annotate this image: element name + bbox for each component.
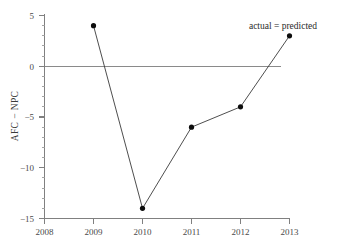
series-line-afc-minus-npc xyxy=(94,26,290,209)
data-point-2009 xyxy=(91,23,96,28)
line-chart-plot: 5 0 −5 −10 −15 2008 2009 2010 2011 2012 … xyxy=(0,0,337,250)
y-axis-title: AFC − NPC xyxy=(10,91,20,142)
data-point-2011 xyxy=(189,125,194,130)
y-tick-label-minus10: −10 xyxy=(20,163,35,173)
x-tick-label-2011: 2011 xyxy=(183,227,201,237)
data-point-2013 xyxy=(287,33,292,38)
data-point-2010 xyxy=(140,206,145,211)
x-tick-label-2010: 2010 xyxy=(134,227,153,237)
x-tick-label-2012: 2012 xyxy=(232,227,250,237)
y-tick-label-minus5: −5 xyxy=(24,112,34,122)
x-tick-label-2013: 2013 xyxy=(281,227,300,237)
x-tick-label-2009: 2009 xyxy=(85,227,104,237)
x-axis-ticks xyxy=(45,219,290,225)
chart-container: 5 0 −5 −10 −15 2008 2009 2010 2011 2012 … xyxy=(0,0,337,250)
series-markers xyxy=(91,23,292,211)
y-tick-label-0: 0 xyxy=(30,62,35,72)
data-point-2012 xyxy=(238,104,243,109)
y-tick-label-5: 5 xyxy=(30,11,35,21)
y-tick-label-minus15: −15 xyxy=(20,214,35,224)
annotation-actual-equals-predicted: actual = predicted xyxy=(249,21,317,31)
x-tick-label-2008: 2008 xyxy=(36,227,55,237)
